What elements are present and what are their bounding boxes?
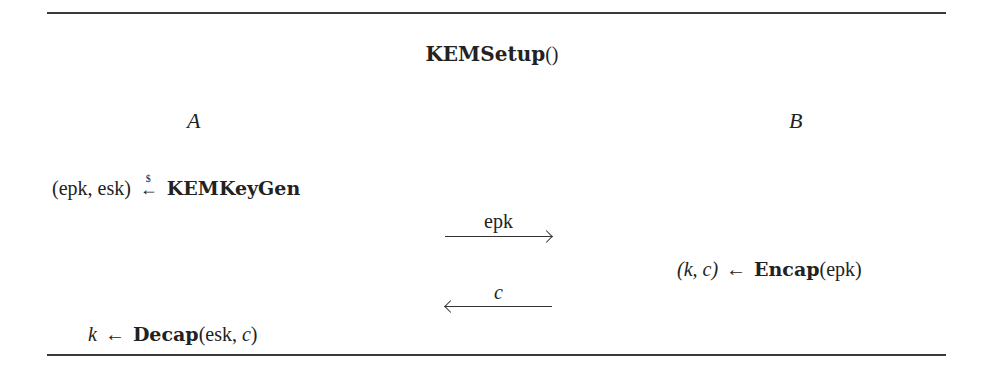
protocol-title-name: KEMSetup bbox=[425, 42, 545, 66]
step-encap: (k, c)←Encap(epk) bbox=[677, 259, 862, 279]
party-a-label: A bbox=[187, 110, 200, 132]
party-b-label: B bbox=[789, 110, 802, 132]
step-decap: k←Decap(esk, c) bbox=[88, 324, 258, 344]
dollar-superscript: $ bbox=[146, 174, 151, 184]
step-keygen: (epk, esk)$←KEMKeyGen bbox=[52, 178, 300, 198]
keygen-func: KEMKeyGen bbox=[167, 177, 300, 199]
encap-func: Encap bbox=[754, 258, 819, 280]
encap-lhs: (k, c) bbox=[677, 258, 718, 280]
protocol-title-parens: () bbox=[545, 43, 558, 65]
decap-args-open: (esk, bbox=[199, 323, 242, 345]
message-c-label: c bbox=[445, 282, 552, 302]
bottom-rule bbox=[47, 354, 946, 356]
left-arrow-icon: ← bbox=[726, 258, 746, 280]
decap-func: Decap bbox=[133, 323, 199, 345]
decap-args-var: c bbox=[242, 323, 251, 345]
decap-lhs: k bbox=[88, 323, 97, 345]
left-arrow-line bbox=[445, 306, 552, 307]
decap-args-close: ) bbox=[251, 323, 258, 345]
left-arrow-icon: ← bbox=[105, 323, 125, 345]
protocol-title: KEMSetup() bbox=[0, 44, 984, 64]
top-rule bbox=[47, 12, 946, 14]
random-sample-arrow-icon: $← bbox=[137, 178, 161, 198]
right-arrowhead-icon bbox=[540, 230, 553, 243]
right-arrow-line bbox=[445, 236, 552, 237]
keygen-lhs: (epk, esk) bbox=[52, 177, 131, 199]
encap-args: (epk) bbox=[820, 258, 862, 280]
message-epk-label: epk bbox=[445, 211, 552, 231]
